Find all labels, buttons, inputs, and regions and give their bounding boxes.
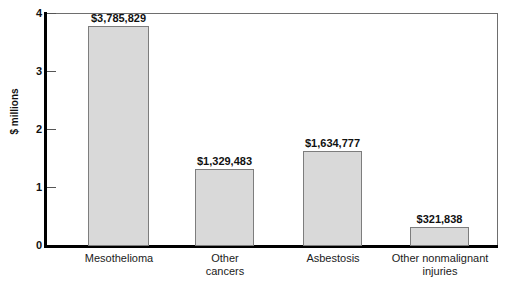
y-tick-mark-3 (47, 71, 56, 72)
bar-value-mesothelioma: $3,785,829 (78, 12, 159, 24)
bar-other-cancers[interactable] (195, 169, 254, 246)
category-label-mesothelioma: Mesothelioma (68, 252, 170, 265)
bar-mesothelioma[interactable] (88, 26, 149, 246)
y-tick-mark-1 (47, 187, 56, 188)
category-label-line: Mesothelioma (68, 252, 170, 265)
y-tick-label-0: 0 (24, 240, 42, 251)
y-tick-label-2: 2 (24, 124, 42, 135)
bar-chart-figure: $ millions 4 3 2 1 0 $3,785,829 $1,329,4… (0, 0, 519, 282)
bar-other-nonmalignant-injuries[interactable] (410, 227, 469, 246)
y-tick-label-3: 3 (24, 66, 42, 77)
category-label-other-nonmalignant-injuries: Other nonmalignant injuries (378, 252, 502, 278)
category-label-line: Other nonmalignant (378, 252, 502, 265)
category-label-line: cancers (184, 265, 266, 278)
category-label-line: Other (184, 252, 266, 265)
y-tick-mark-4 (47, 13, 56, 14)
bar-asbestosis[interactable] (303, 151, 362, 246)
bar-value-other-nonmalignant-injuries: $321,838 (404, 213, 475, 225)
bar-value-other-cancers: $1,329,483 (184, 155, 265, 167)
category-label-line: injuries (378, 265, 502, 278)
bar-value-asbestosis: $1,634,777 (292, 137, 373, 149)
y-tick-label-4: 4 (24, 8, 42, 19)
category-label-other-cancers: Other cancers (184, 252, 266, 278)
y-tick-mark-2 (47, 129, 56, 130)
category-label-line: Asbestosis (290, 252, 376, 265)
y-tick-label-1: 1 (24, 182, 42, 193)
y-tick-label-group: 4 3 2 1 0 (16, 0, 42, 282)
category-label-asbestosis: Asbestosis (290, 252, 376, 265)
y-axis-line (44, 12, 47, 248)
